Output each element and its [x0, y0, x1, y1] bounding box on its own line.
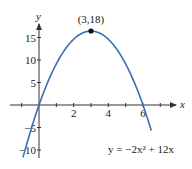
x-tick-label: 2	[71, 107, 77, 119]
parabola-chart: 246 15105−5−10 (3,18) y = −2x² + 12x x y	[0, 0, 192, 169]
x-tick-label: 4	[106, 107, 112, 119]
vertex-dot	[88, 28, 93, 33]
y-axis: 15105−5−10	[19, 24, 41, 158]
x-axis-label: x	[179, 98, 185, 110]
vertex-annotation: (3,18)	[78, 13, 105, 34]
y-tick-label: 10	[25, 54, 37, 66]
equation-label: y = −2x² + 12x	[108, 143, 174, 155]
y-tick-label: 15	[25, 32, 37, 44]
y-axis-label: y	[35, 10, 41, 22]
y-tick-label: 5	[31, 77, 37, 89]
parabola-curve	[23, 31, 151, 157]
y-tick-label: −10	[19, 144, 37, 156]
vertex-label: (3,18)	[78, 13, 105, 26]
